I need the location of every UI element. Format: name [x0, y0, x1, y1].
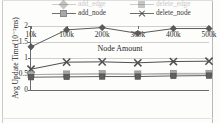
- data-point: [63, 27, 69, 33]
- data-point: [135, 30, 141, 36]
- y-tick-label: 1: [24, 54, 28, 62]
- chart-legend: add_edge delete_edge add_node delete: [52, 0, 202, 21]
- legend-item-add-node: add_node: [52, 8, 106, 18]
- square-light-marker-icon: [52, 10, 76, 17]
- data-point: [171, 73, 176, 78]
- data-point: [206, 73, 211, 78]
- x-marker-icon: [130, 10, 154, 17]
- y-tick-label: 0.5: [19, 70, 28, 78]
- series-line: [31, 76, 209, 78]
- legend-label-delete-edge: delete_edge: [156, 0, 190, 8]
- figure-border-right: [212, 0, 213, 123]
- y-tick-label: 2: [24, 22, 28, 30]
- data-point: [99, 24, 105, 30]
- y-tick-mark: [28, 90, 31, 91]
- series-add_node: [27, 58, 212, 73]
- x-axis-title: Node Amount: [97, 44, 142, 53]
- series-line: [31, 73, 209, 74]
- data-point: [135, 74, 140, 79]
- legend-row-2: add_node delete_node: [52, 8, 202, 18]
- legend-item-delete-node: delete_node: [130, 8, 191, 18]
- data-point: [170, 25, 176, 31]
- data-point: [28, 75, 33, 80]
- square-marker-icon: [130, 1, 154, 8]
- data-point: [100, 74, 105, 79]
- legend-label-delete-node: delete_node: [156, 9, 191, 17]
- chart-figure: add_edge delete_edge add_node delete: [0, 0, 220, 123]
- legend-label-add-node: add_node: [78, 9, 106, 17]
- y-tick-label: 0: [24, 86, 28, 94]
- data-point: [64, 74, 69, 79]
- data-point: [28, 44, 34, 50]
- series-line: [31, 61, 209, 69]
- y-tick-label: 1.5: [19, 38, 28, 46]
- figure-border-bottom: [2, 118, 213, 119]
- legend-label-add-edge: add_edge: [78, 0, 106, 8]
- plot-area: 00.511.52 10k100k200k300k400k500k Avg Up…: [30, 26, 209, 91]
- triangle-marker-icon: [52, 1, 76, 8]
- figure-border-left: [2, 0, 3, 123]
- series-layer: [31, 26, 209, 90]
- y-axis-title: Avg Update Time(10⁻²ms): [11, 17, 20, 99]
